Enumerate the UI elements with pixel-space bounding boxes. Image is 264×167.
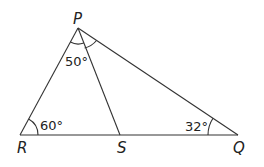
vertex-label-r: R xyxy=(17,139,27,157)
arc-angle-pqr xyxy=(208,118,213,135)
angle-label-prs: 60° xyxy=(40,118,63,133)
angle-label-pqr: 32° xyxy=(185,119,208,134)
arc-angle-rps xyxy=(70,42,83,44)
segment-ps xyxy=(78,28,120,135)
side-pq xyxy=(78,28,238,135)
arc-angle-prs xyxy=(29,119,38,135)
arc-angle-spq xyxy=(85,41,97,49)
vertex-label-s: S xyxy=(117,139,127,157)
vertex-label-q: Q xyxy=(233,139,245,157)
angle-label-rps: 50° xyxy=(65,54,88,69)
vertex-label-p: P xyxy=(73,10,83,28)
triangle-diagram: P R S Q 50° 60° 32° xyxy=(0,0,264,167)
